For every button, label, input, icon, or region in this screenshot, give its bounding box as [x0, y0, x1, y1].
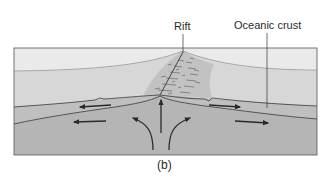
oceanic-crust-label: Oceanic crust	[234, 19, 301, 31]
rift-label: Rift	[174, 20, 191, 32]
figure-caption: (b)	[157, 158, 172, 172]
